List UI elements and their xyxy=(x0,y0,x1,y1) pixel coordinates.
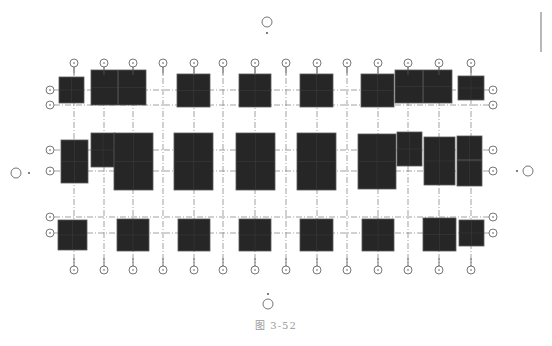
axis-bubble-bottom-dot xyxy=(193,269,195,271)
view-marker-right-icon xyxy=(523,166,533,176)
axis-bubble-bottom-dot xyxy=(162,269,164,271)
axis-bubble-left-dot xyxy=(49,232,51,234)
axis-bubble-top-dot xyxy=(162,62,164,64)
view-marker-dot xyxy=(28,172,30,174)
axis-bubble-bottom-dot xyxy=(316,269,318,271)
axis-bubble-top-dot xyxy=(254,62,256,64)
axis-bubble-top-dot xyxy=(470,62,472,64)
view-marker-dot xyxy=(516,170,518,172)
axis-bubble-top-dot xyxy=(193,62,195,64)
axis-bubble-bottom-dot xyxy=(346,269,348,271)
axis-bubble-bottom-dot xyxy=(470,269,472,271)
view-marker-bottom-icon xyxy=(263,299,273,309)
axis-bubble-bottom-dot xyxy=(103,269,105,271)
scrollbar[interactable] xyxy=(540,12,542,52)
view-marker-top-icon xyxy=(262,17,272,27)
axis-bubble-left-dot xyxy=(49,216,51,218)
figure-caption: 图 3-52 xyxy=(0,317,552,332)
axis-bubble-bottom-dot xyxy=(407,269,409,271)
axis-bubble-right-dot xyxy=(492,232,494,234)
axis-bubble-bottom-dot xyxy=(285,269,287,271)
axis-bubble-top-dot xyxy=(438,62,440,64)
axis-bubble-bottom-dot xyxy=(73,269,75,271)
axis-bubble-right-dot xyxy=(492,89,494,91)
axis-bubble-left-dot xyxy=(49,89,51,91)
axis-bubble-top-dot xyxy=(132,62,134,64)
axis-bubble-bottom-dot xyxy=(132,269,134,271)
view-marker-dot xyxy=(267,293,269,295)
view-marker-left-icon xyxy=(11,168,21,178)
axis-bubble-bottom-dot xyxy=(222,269,224,271)
axis-bubble-bottom-dot xyxy=(377,269,379,271)
axis-bubble-bottom-dot xyxy=(438,269,440,271)
footing-blocks xyxy=(58,70,484,251)
axis-bubble-top-dot xyxy=(407,62,409,64)
foundation-plan-drawing xyxy=(0,0,552,346)
view-marker-dot xyxy=(266,32,268,34)
axis-bubble-top-dot xyxy=(222,62,224,64)
axis-bubble-right-dot xyxy=(492,216,494,218)
axis-bubble-left-dot xyxy=(49,170,51,172)
axis-bubble-right-dot xyxy=(492,170,494,172)
axis-bubble-top-dot xyxy=(73,62,75,64)
axis-bubble-right-dot xyxy=(492,104,494,106)
axis-bubble-top-dot xyxy=(316,62,318,64)
axis-bubble-right-dot xyxy=(492,149,494,151)
axis-bubble-top-dot xyxy=(285,62,287,64)
axis-bubble-left-dot xyxy=(49,104,51,106)
axis-bubble-top-dot xyxy=(346,62,348,64)
axis-bubble-left-dot xyxy=(49,149,51,151)
axis-bubble-bottom-dot xyxy=(254,269,256,271)
axis-bubble-top-dot xyxy=(377,62,379,64)
axis-bubble-top-dot xyxy=(103,62,105,64)
